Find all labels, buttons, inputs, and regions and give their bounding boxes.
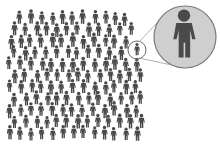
person-icon	[79, 104, 85, 117]
person-icon	[18, 104, 24, 116]
person-icon	[117, 114, 124, 128]
person-icon	[92, 10, 98, 23]
person-icon	[70, 58, 77, 72]
person-icon	[18, 34, 24, 48]
person-icon	[34, 21, 41, 35]
person-icon	[48, 58, 54, 72]
person-icon	[117, 22, 123, 35]
person-icon	[7, 79, 13, 91]
person-icon	[85, 70, 91, 83]
person-icon	[80, 125, 86, 138]
person-icon	[107, 93, 113, 106]
person-icon	[122, 13, 128, 26]
person-icon	[85, 115, 91, 128]
person-icon	[79, 9, 86, 24]
person-icon	[44, 68, 50, 81]
person-icon	[75, 68, 81, 82]
person-icon	[117, 70, 123, 84]
person-icon	[17, 127, 23, 140]
person-icon	[90, 103, 96, 116]
person-icon	[53, 114, 59, 127]
person-icon	[21, 68, 27, 81]
person-icon	[35, 70, 41, 83]
person-icon	[111, 80, 117, 93]
person-icon	[49, 102, 55, 116]
person-icon	[38, 102, 44, 115]
person-icon	[54, 45, 60, 58]
person-icon	[22, 46, 29, 60]
person-icon	[11, 45, 17, 57]
person-icon	[101, 126, 107, 140]
person-icon	[108, 68, 114, 81]
person-icon	[59, 58, 65, 72]
person-icon	[76, 92, 82, 106]
person-icon	[132, 80, 138, 93]
person-icon	[74, 47, 80, 60]
person-icon	[44, 116, 50, 128]
person-icon	[17, 56, 23, 70]
person-icon	[11, 93, 17, 107]
person-icon	[39, 11, 45, 24]
person-icon	[28, 57, 34, 71]
person-icon	[12, 116, 18, 128]
person-icon	[97, 69, 103, 82]
person-icon	[95, 114, 101, 127]
person-icon	[103, 34, 109, 46]
person-icon	[39, 126, 45, 139]
person-icon	[11, 21, 17, 35]
person-icon	[71, 125, 77, 138]
person-icon	[70, 32, 77, 47]
person-icon	[50, 12, 56, 25]
person-icon	[112, 12, 118, 25]
person-icon	[24, 93, 30, 106]
person-icon	[103, 10, 109, 23]
person-icon	[58, 34, 64, 48]
person-icon	[6, 104, 13, 118]
person-icon	[86, 22, 93, 37]
person-icon	[96, 22, 102, 35]
person-icon	[12, 69, 18, 83]
person-icon	[69, 11, 75, 24]
person-icon	[50, 127, 56, 140]
person-icon	[75, 114, 82, 129]
person-icon	[58, 81, 64, 94]
person-icon	[69, 103, 75, 116]
person-icon	[23, 115, 29, 128]
person-icon	[138, 114, 144, 128]
person-icon	[32, 46, 38, 58]
person-icon	[43, 22, 49, 36]
person-icon	[38, 34, 44, 48]
person-icon	[54, 23, 60, 37]
person-icon	[22, 23, 28, 36]
person-icon	[74, 21, 80, 34]
person-icon	[80, 79, 86, 93]
person-icon	[28, 9, 35, 23]
person-icon	[85, 44, 91, 57]
person-icon	[123, 80, 130, 95]
person-icon	[137, 91, 143, 104]
person-icon	[123, 128, 129, 141]
person-icon	[106, 24, 112, 37]
person-icon	[63, 91, 70, 105]
person-icon	[28, 102, 34, 115]
crowd-illustration	[0, 0, 220, 152]
person-icon	[18, 80, 24, 94]
person-icon	[53, 92, 59, 106]
person-icon	[118, 46, 124, 60]
person-icon	[38, 81, 44, 93]
person-icon	[92, 126, 98, 138]
person-icon	[29, 79, 35, 92]
crowd-group	[6, 9, 145, 141]
person-icon	[80, 35, 86, 49]
person-icon	[118, 92, 124, 105]
person-icon	[134, 126, 141, 141]
person-icon	[33, 90, 39, 104]
person-icon	[16, 10, 22, 23]
person-icon	[28, 128, 34, 141]
person-icon	[133, 105, 139, 117]
person-icon	[111, 34, 117, 48]
person-icon	[54, 69, 60, 81]
person-icon	[96, 44, 102, 58]
person-icon	[43, 46, 49, 58]
person-icon	[63, 22, 69, 35]
